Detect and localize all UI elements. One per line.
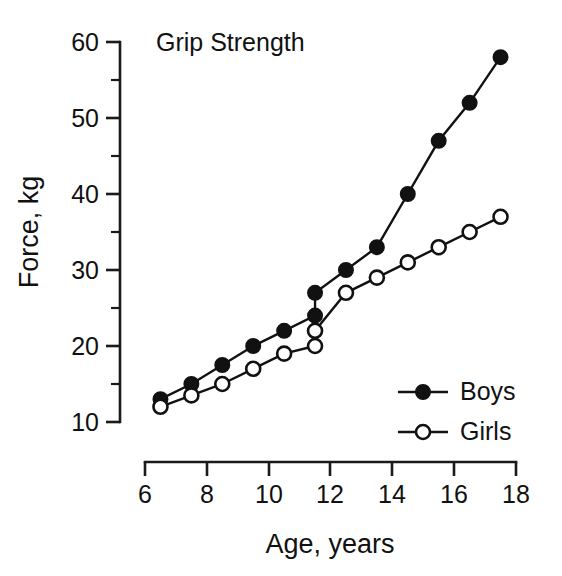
y-axis-minor-ticks [111,80,120,384]
series-girls [153,210,507,414]
x-tick-label-10: 10 [255,480,283,508]
data-point [246,362,260,376]
chart-legend: BoysGirls [398,377,516,445]
data-point [246,339,260,353]
legend-label: Girls [460,417,511,445]
legend-label: Boys [460,377,516,405]
x-axis-title: Age, years [265,529,394,559]
x-tick-label-8: 8 [200,480,214,508]
legend-entry-girls[interactable]: Girls [398,417,511,445]
x-axis: 6 8 10 12 14 16 18 Age, years [138,462,530,559]
series-line-girls [160,217,500,407]
x-tick-label-18: 18 [502,480,530,508]
data-point [277,324,291,338]
data-point [432,134,446,148]
data-point [463,225,477,239]
data-point [462,96,476,110]
x-tick-label-16: 16 [440,480,468,508]
data-point [308,286,322,300]
y-axis-tick-labels: 60 50 40 30 20 10 [71,28,99,436]
data-point [215,377,229,391]
data-point [184,388,198,402]
series-boys [153,50,507,406]
data-point [401,187,415,201]
data-point [339,263,353,277]
y-tick-label-10: 10 [71,408,99,436]
grip-strength-figure: 60 50 40 30 20 10 Force, kg 6 [0,0,562,576]
chart-title: Grip Strength [156,28,305,56]
data-point [370,271,384,285]
chart-canvas: 60 50 40 30 20 10 Force, kg 6 [0,0,562,576]
data-point [432,240,446,254]
data-point [308,308,322,322]
y-tick-label-50: 50 [71,104,99,132]
legend-entry-boys[interactable]: Boys [398,377,516,405]
data-point [370,240,384,254]
y-tick-label-40: 40 [71,180,99,208]
x-axis-major-ticks [145,462,516,476]
x-tick-label-12: 12 [316,480,344,508]
data-point [401,255,415,269]
series-line-boys [160,57,500,399]
x-axis-tick-labels: 6 8 10 12 14 16 18 [138,480,530,508]
y-tick-label-60: 60 [71,28,99,56]
x-tick-label-14: 14 [378,480,406,508]
data-point [339,286,353,300]
y-tick-label-20: 20 [71,332,99,360]
data-point [277,347,291,361]
legend-open-circle-icon [416,425,430,439]
data-point [308,324,322,338]
legend-filled-circle-icon [416,385,430,399]
y-tick-label-30: 30 [71,256,99,284]
data-point [494,210,508,224]
data-point [493,50,507,64]
x-tick-label-6: 6 [138,480,152,508]
data-point [308,339,322,353]
data-point [153,400,167,414]
plot-area [153,50,507,414]
y-axis: 60 50 40 30 20 10 Force, kg [14,28,120,436]
data-point [215,358,229,372]
y-axis-title: Force, kg [14,176,44,289]
